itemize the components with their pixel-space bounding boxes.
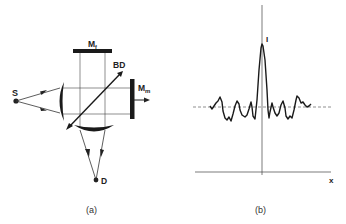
x-axis-label: x <box>329 176 334 185</box>
arrow-icon <box>85 149 90 157</box>
fixed-mirror-label: Mf <box>88 39 97 50</box>
interferogram-curve <box>210 44 311 121</box>
panel-b-caption: (b) <box>255 205 266 215</box>
panel-a-caption: (a) <box>86 205 97 215</box>
source-label: S <box>12 88 18 98</box>
moving-mirror <box>130 79 135 119</box>
source-point <box>13 98 18 103</box>
detector-label: D <box>101 176 107 186</box>
beamsplitter <box>69 74 120 127</box>
y-axis-label: I <box>266 35 268 44</box>
ray-s-lower <box>16 101 60 113</box>
detector-point <box>94 178 99 183</box>
beamsplitter-label: BD <box>113 60 125 70</box>
fixed-mirror <box>73 49 112 53</box>
interferometer-figure: S Mf BD Mm <box>0 0 346 224</box>
ray-s-upper <box>16 88 60 101</box>
ray-d-right <box>96 130 105 180</box>
panel-a-michelson-diagram: S Mf BD Mm <box>12 39 150 215</box>
moving-mirror-label: Mm <box>138 83 150 94</box>
panel-b-interferogram: I x (b) <box>193 5 334 215</box>
